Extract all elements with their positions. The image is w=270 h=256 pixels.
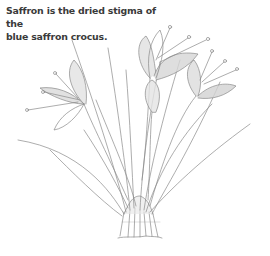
leaves [18, 40, 250, 216]
page-canvas: Saffron is the dried stigma of the blue … [0, 0, 270, 256]
flower-left [26, 60, 129, 200]
crocus-illustration [0, 0, 270, 256]
corm-base [118, 196, 162, 238]
